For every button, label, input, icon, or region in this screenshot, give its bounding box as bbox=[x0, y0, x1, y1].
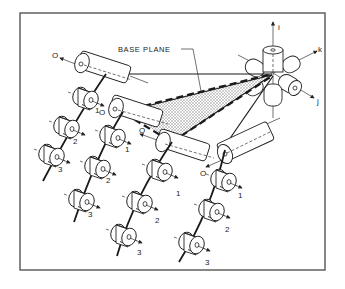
chain-4-label-1: 1 bbox=[238, 191, 243, 200]
chain-3-joint-3 bbox=[106, 222, 142, 248]
k-axis-label: k bbox=[318, 45, 323, 54]
chain-3-root-link bbox=[140, 128, 214, 161]
chain-1-label-zero: O bbox=[52, 51, 58, 60]
base-plane-label: BASE PLANE bbox=[118, 45, 171, 54]
chain-2-label-zero: O bbox=[99, 108, 105, 117]
j-axis-label: j bbox=[316, 97, 319, 106]
chain-4-label-2: 2 bbox=[225, 225, 230, 234]
base-frame-cluster bbox=[238, 22, 317, 118]
chain-1-root-link bbox=[60, 50, 148, 83]
chain-2-label-3: 3 bbox=[88, 210, 93, 219]
chain-3-joint-2 bbox=[122, 189, 158, 215]
base-plane-leader bbox=[181, 49, 201, 91]
chain-4-joint-2 bbox=[194, 197, 230, 223]
chain-1-label-3: 3 bbox=[58, 165, 63, 174]
chain-3-label-zero: O bbox=[139, 126, 145, 135]
chain-4-label-zero: O bbox=[200, 169, 206, 178]
i-axis-label: i bbox=[278, 23, 280, 32]
chain-1-label-1: 1 bbox=[95, 106, 100, 115]
chain-1-joint-3 bbox=[34, 142, 70, 168]
chain-4-label-3: 3 bbox=[205, 258, 210, 267]
chain-3-label-2: 2 bbox=[155, 216, 160, 225]
chain-1-label-2: 2 bbox=[73, 137, 78, 146]
chain-2-label-1: 1 bbox=[125, 145, 130, 154]
chain-4-joint-1 bbox=[206, 167, 242, 193]
chain-3-label-3: 3 bbox=[137, 248, 142, 257]
chain-4-joint-3 bbox=[174, 230, 210, 256]
chain-1-joint-2 bbox=[49, 114, 85, 140]
chain-2-joint-3 bbox=[64, 187, 100, 213]
kinematic-chain-diagram: i k j BASE PLANE O O O bbox=[0, 0, 345, 289]
chain-2-label-2: 2 bbox=[106, 176, 111, 185]
chain-3-label-1: 1 bbox=[176, 189, 181, 198]
chain-4-root-link bbox=[206, 118, 280, 167]
